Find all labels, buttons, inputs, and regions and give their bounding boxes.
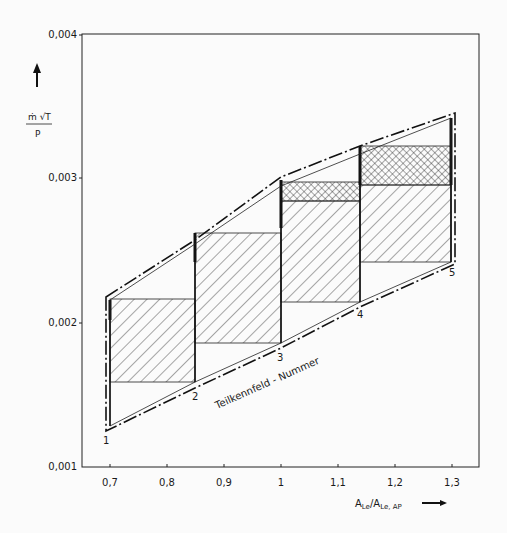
point-label-5: 5 bbox=[449, 267, 455, 278]
point-label-2: 2 bbox=[192, 391, 198, 402]
sub-map-3-crosshatch bbox=[281, 182, 360, 201]
svg-text:ṁ √T: ṁ √T bbox=[28, 112, 51, 122]
point-label-1: 1 bbox=[103, 435, 109, 446]
x-tick-label: 1,3 bbox=[444, 477, 460, 488]
y-axis: 0,004 0,003 0,002 0,001 bbox=[48, 29, 82, 472]
x-tick-label: 1,1 bbox=[330, 477, 346, 488]
svg-text:P: P bbox=[35, 129, 41, 139]
point-label-4: 4 bbox=[357, 309, 363, 320]
sub-map-4-crosshatch bbox=[360, 146, 451, 185]
x-tick-label: 0,7 bbox=[102, 477, 118, 488]
teilkennfeld-annotation: Teilkennfeld - Nummer bbox=[212, 355, 321, 412]
x-axis-label: ALe/ALe, AP bbox=[355, 498, 447, 511]
arrow-right-icon bbox=[440, 500, 447, 506]
arrow-up-icon bbox=[33, 63, 41, 73]
x-tick-label: 0,9 bbox=[216, 477, 232, 488]
y-tick-label: 0,002 bbox=[48, 317, 77, 328]
sub-map-3 bbox=[281, 201, 360, 302]
x-tick-label: 1,2 bbox=[387, 477, 403, 488]
point-label-3: 3 bbox=[277, 352, 283, 363]
sub-map-4 bbox=[360, 185, 451, 262]
svg-text:ALe/ALe, AP: ALe/ALe, AP bbox=[355, 498, 402, 511]
chart-canvas: 0,004 0,003 0,002 0,001 0,7 0,8 0,9 1 1,… bbox=[0, 0, 507, 533]
sub-map-1 bbox=[110, 299, 195, 382]
y-tick-label: 0,004 bbox=[48, 29, 77, 40]
x-tick-label: 0,8 bbox=[159, 477, 175, 488]
sub-map-2 bbox=[195, 233, 281, 343]
x-tick-label: 1 bbox=[278, 477, 284, 488]
y-tick-label: 0,003 bbox=[48, 172, 77, 183]
y-tick-label: 0,001 bbox=[48, 461, 77, 472]
x-axis: 0,7 0,8 0,9 1 1,1 1,2 1,3 bbox=[102, 464, 460, 488]
y-axis-label: ṁ √T P bbox=[26, 63, 52, 139]
